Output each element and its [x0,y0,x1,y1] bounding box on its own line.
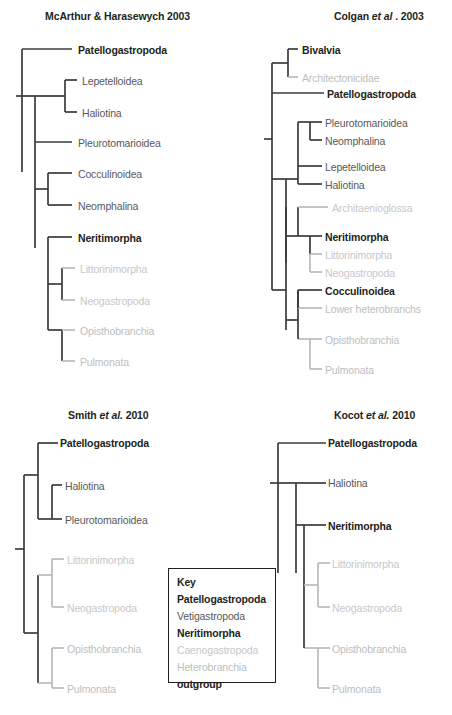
tree-tip-label: Cocculinoidea [325,286,395,297]
tree-tip-label: Patellogastropoda [60,438,149,449]
tree-tip-label: Neogastropoda [325,268,395,279]
tree-tip-label: Architectonicidae [302,73,379,84]
tree-tip-label: Pleurotomarioidea [325,118,408,129]
tree-tip-label: Patellogastropoda [327,89,416,100]
key-entry-heterobranchia: Heterobranchia [177,662,247,673]
key-title: Key [177,577,196,588]
tree-tip-label: Pleurotomarioidea [65,515,148,526]
tree-tip-label: Pleurotomarioidea [78,138,161,149]
tree-tip-label: Cocculinoidea [78,169,142,180]
tree-tip-label: Lepetelloidea [325,162,386,173]
tree-tip-label: Opisthobranchia [80,326,154,337]
key-entry-outgroup: outgroup [177,679,222,690]
key-entry-vetigastropoda: Vetigastropoda [177,611,245,622]
tree-tip-label: Neogastropoda [67,603,137,614]
tree-tip-label: Neritimorpha [325,232,389,243]
tree-tip-label: Pulmonata [332,684,381,695]
tree-tip-label: Littorinimorpha [80,264,147,275]
tree-tip-label: Neritimorpha [78,233,142,244]
tree-tip-label: Haliotina [328,478,368,489]
key-entry-caenogastropoda: Caenogastropoda [177,645,258,656]
tree-tip-label: Opisthobranchia [332,644,406,655]
tree-tip-label: Neritimorpha [328,521,392,532]
key-entry-patellogastropoda: Patellogastropoda [177,594,266,605]
tree-tip-label: Littorinimorpha [67,555,134,566]
tree-tip-label: Patellogastropoda [78,45,167,56]
key-legend-box: Key Patellogastropoda Vetigastropoda Ner… [168,568,276,683]
tree-tip-label: Haliotina [82,108,122,119]
tree-tip-label: Bivalvia [302,45,341,56]
tree-tip-label: Haliotina [65,481,105,492]
tree-tip-label: Haliotina [325,180,365,191]
tree-tip-label: Neogastropoda [80,296,150,307]
tree-tip-label: Opisthobranchia [67,644,141,655]
tree-tip-label: Littorinimorpha [332,559,399,570]
tree-tip-label: Neogastropoda [332,603,402,614]
tree-tip-label: Lower heterobranchs [325,304,421,315]
tree-tip-label: Architaenioglossa [332,203,412,214]
tree-tip-label: Pulmonata [80,357,129,368]
key-entry-neritimorpha: Neritimorpha [177,628,241,639]
tree-tip-label: Pulmonata [325,365,374,376]
tree-tip-label: Neomphalina [78,201,138,212]
tree-tip-label: Pulmonata [67,684,116,695]
tree-tip-label: Lepetelloidea [82,76,143,87]
tree-panel-colgan: Colgan et al . 2003 [226,0,452,395]
tree-tip-label: Littorinimorpha [325,250,392,261]
tree-panel-mcarthur: McArthur & Harasewych 2003 [0,0,226,395]
tree-tip-label: Patellogastropoda [328,438,417,449]
tree-tip-label: Neomphalina [325,136,385,147]
tree-tip-label: Opisthobranchia [325,335,399,346]
